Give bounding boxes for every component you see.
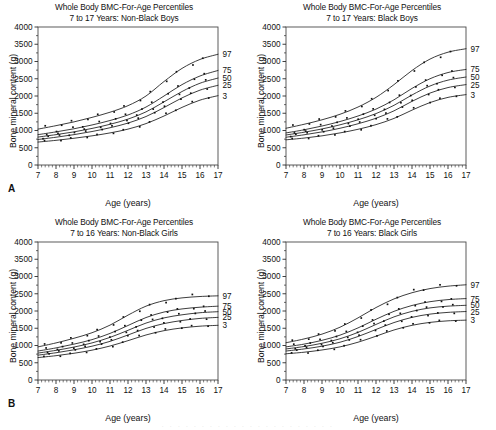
svg-text:15: 15 bbox=[177, 386, 187, 395]
chart-svg: 0500100015002000250030003500400078910111… bbox=[286, 242, 466, 380]
percentile-label-97: 97 bbox=[223, 292, 233, 301]
y-axis-label: Bone mineral content (g) bbox=[8, 35, 18, 167]
svg-text:2500: 2500 bbox=[262, 75, 281, 84]
panel-title-line1: Whole Body BMC-For-Age Percentiles bbox=[55, 2, 193, 12]
panel-title: Whole Body BMC-For-Age Percentiles 7 to … bbox=[248, 217, 496, 238]
svg-text:10: 10 bbox=[87, 386, 97, 395]
svg-text:14: 14 bbox=[407, 386, 417, 395]
percentile-label-97: 97 bbox=[471, 45, 481, 54]
svg-text:3000: 3000 bbox=[262, 57, 281, 66]
panel-black-boys: Whole Body BMC-For-Age Percentiles 7 to … bbox=[248, 0, 496, 215]
svg-text:13: 13 bbox=[389, 171, 399, 180]
panel-title: Whole Body BMC-For-Age Percentiles 7 to … bbox=[0, 217, 248, 238]
svg-text:4000: 4000 bbox=[262, 23, 281, 32]
svg-text:1000: 1000 bbox=[262, 341, 281, 350]
svg-text:4000: 4000 bbox=[14, 23, 33, 32]
svg-text:8: 8 bbox=[54, 171, 59, 180]
panel-title-line1: Whole Body BMC-For-Age Percentiles bbox=[55, 217, 193, 227]
svg-text:2000: 2000 bbox=[262, 307, 281, 316]
svg-text:500: 500 bbox=[267, 359, 281, 368]
plot-area: 0500100015002000250030003500400078910111… bbox=[38, 27, 218, 165]
svg-text:0: 0 bbox=[276, 161, 281, 170]
panel-title: Whole Body BMC-For-Age Percentiles 7 to … bbox=[0, 2, 248, 23]
svg-text:13: 13 bbox=[141, 386, 151, 395]
svg-text:10: 10 bbox=[87, 171, 97, 180]
percentile-label-97: 97 bbox=[471, 281, 481, 290]
svg-text:2500: 2500 bbox=[14, 290, 33, 299]
panel-letter-b: B bbox=[8, 398, 15, 409]
svg-text:4000: 4000 bbox=[14, 238, 33, 247]
svg-text:0: 0 bbox=[28, 376, 33, 385]
svg-text:3500: 3500 bbox=[14, 40, 33, 49]
svg-text:500: 500 bbox=[267, 144, 281, 153]
svg-text:8: 8 bbox=[302, 171, 307, 180]
y-axis-label: Bone mineral content (g) bbox=[256, 250, 266, 382]
panel-title-line2: 7 to 17 Years: Black Boys bbox=[248, 13, 496, 24]
svg-text:12: 12 bbox=[123, 386, 133, 395]
svg-text:9: 9 bbox=[72, 171, 77, 180]
panel-black-girls: Whole Body BMC-For-Age Percentiles 7 to … bbox=[248, 215, 496, 430]
svg-text:11: 11 bbox=[354, 386, 363, 395]
percentile-label-25: 25 bbox=[471, 81, 481, 90]
svg-text:8: 8 bbox=[302, 386, 307, 395]
svg-text:9: 9 bbox=[320, 386, 325, 395]
panel-title: Whole Body BMC-For-Age Percentiles 7 to … bbox=[248, 2, 496, 23]
chart-svg: 0500100015002000250030003500400078910111… bbox=[286, 27, 466, 165]
svg-text:1000: 1000 bbox=[14, 341, 33, 350]
svg-text:2500: 2500 bbox=[14, 75, 33, 84]
svg-text:17: 17 bbox=[461, 386, 471, 395]
svg-text:11: 11 bbox=[106, 386, 115, 395]
svg-text:8: 8 bbox=[54, 386, 59, 395]
svg-text:1500: 1500 bbox=[262, 109, 281, 118]
svg-text:11: 11 bbox=[106, 171, 115, 180]
panel-title-line1: Whole Body BMC-For-Age Percentiles bbox=[303, 217, 441, 227]
plot-area: 0500100015002000250030003500400078910111… bbox=[286, 242, 466, 380]
svg-text:15: 15 bbox=[177, 171, 187, 180]
percentile-label-3: 3 bbox=[471, 316, 476, 325]
svg-text:1000: 1000 bbox=[14, 126, 33, 135]
panel-nonblack-girls: Whole Body BMC-For-Age Percentiles 7 to … bbox=[0, 215, 248, 430]
svg-text:12: 12 bbox=[371, 386, 381, 395]
svg-text:11: 11 bbox=[354, 171, 363, 180]
svg-text:7: 7 bbox=[36, 386, 41, 395]
percentile-label-3: 3 bbox=[471, 91, 476, 100]
svg-text:16: 16 bbox=[443, 171, 453, 180]
panel-title-line1: Whole Body BMC-For-Age Percentiles bbox=[303, 2, 441, 12]
svg-text:10: 10 bbox=[335, 386, 345, 395]
svg-text:3000: 3000 bbox=[14, 57, 33, 66]
svg-text:3000: 3000 bbox=[14, 272, 33, 281]
svg-text:2000: 2000 bbox=[262, 92, 281, 101]
svg-text:2000: 2000 bbox=[14, 307, 33, 316]
svg-text:3000: 3000 bbox=[262, 272, 281, 281]
plot-area: 0500100015002000250030003500400078910111… bbox=[38, 242, 218, 380]
svg-text:16: 16 bbox=[195, 386, 205, 395]
svg-text:17: 17 bbox=[213, 386, 223, 395]
svg-text:7: 7 bbox=[36, 171, 41, 180]
svg-text:7: 7 bbox=[284, 386, 289, 395]
percentile-label-3: 3 bbox=[223, 92, 228, 101]
panel-letter-a: A bbox=[8, 183, 15, 194]
panel-nonblack-boys: Whole Body BMC-For-Age Percentiles 7 to … bbox=[0, 0, 248, 215]
svg-text:14: 14 bbox=[159, 386, 169, 395]
percentile-label-3: 3 bbox=[223, 321, 228, 330]
svg-text:2500: 2500 bbox=[262, 290, 281, 299]
svg-text:9: 9 bbox=[320, 171, 325, 180]
svg-text:3500: 3500 bbox=[14, 255, 33, 264]
x-axis-label: Age (years) bbox=[38, 198, 218, 208]
svg-text:17: 17 bbox=[213, 171, 223, 180]
svg-text:14: 14 bbox=[407, 171, 417, 180]
svg-text:9: 9 bbox=[72, 386, 77, 395]
y-axis-label: Bone mineral content (g) bbox=[8, 250, 18, 382]
cut-off-caption: . . . . . . . . . . . . . . . . . . . . … bbox=[0, 421, 496, 430]
svg-text:15: 15 bbox=[425, 171, 435, 180]
chart-svg: 0500100015002000250030003500400078910111… bbox=[38, 27, 218, 165]
svg-text:17: 17 bbox=[461, 171, 471, 180]
svg-text:0: 0 bbox=[276, 376, 281, 385]
svg-text:0: 0 bbox=[28, 161, 33, 170]
svg-text:10: 10 bbox=[335, 171, 345, 180]
y-axis-label: Bone mineral content (g) bbox=[256, 35, 266, 167]
chart-svg: 0500100015002000250030003500400078910111… bbox=[38, 242, 218, 380]
figure-grid: Whole Body BMC-For-Age Percentiles 7 to … bbox=[0, 0, 496, 430]
svg-text:14: 14 bbox=[159, 171, 169, 180]
svg-text:1500: 1500 bbox=[14, 109, 33, 118]
